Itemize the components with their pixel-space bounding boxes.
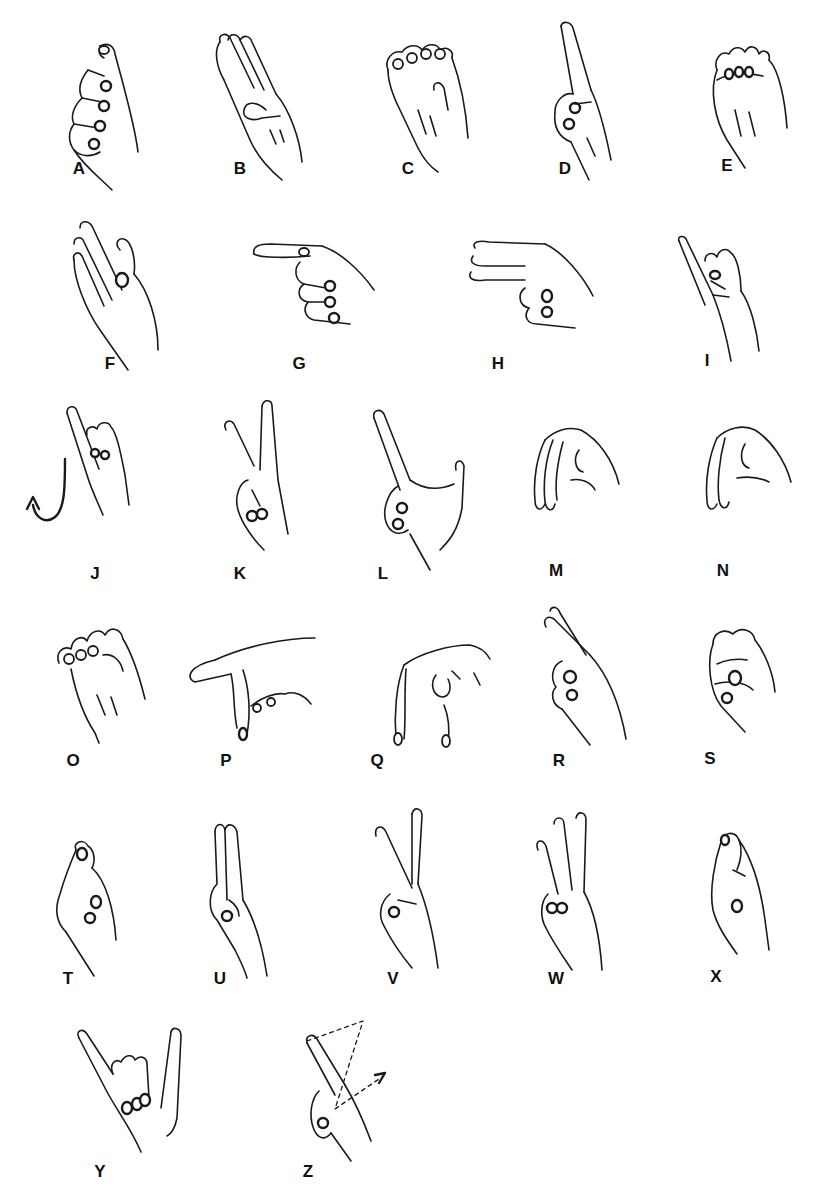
letter-label-o: O <box>66 752 79 769</box>
hand-three-up-spread-icon <box>532 810 642 980</box>
letter-label-z: Z <box>303 1163 313 1180</box>
letter-label-d: D <box>559 160 571 177</box>
hand-three-over-thumb-icon <box>525 420 645 540</box>
hand-index-point-side-icon <box>250 240 390 330</box>
hand-pinky-up-icon <box>675 235 785 365</box>
letter-label-t: T <box>63 970 73 987</box>
letter-label-m: M <box>549 562 563 579</box>
letter-label-n: N <box>717 562 729 579</box>
hand-flat-thumb-across-icon <box>210 30 320 170</box>
letter-label-a: A <box>73 160 85 177</box>
letter-label-y: Y <box>94 1163 105 1180</box>
letter-label-u: U <box>214 970 226 987</box>
manual-alphabet-chart: { "title": "", "letters": [ {"letter": "… <box>0 0 829 1197</box>
letter-label-s: S <box>704 750 715 767</box>
hand-index-trace-z-icon <box>305 1015 425 1165</box>
hand-thumb-pinky-out-icon <box>75 1028 195 1168</box>
hand-two-up-together-icon <box>205 820 305 980</box>
letter-label-p: P <box>220 752 231 769</box>
letter-label-k: K <box>234 565 246 582</box>
hand-two-point-side-icon <box>465 240 605 330</box>
hand-index-thumb-down-icon <box>390 635 510 745</box>
hand-o-shape-icon <box>55 615 165 745</box>
hand-two-up-spread-icon <box>372 808 482 978</box>
letter-label-v: V <box>387 970 398 987</box>
hand-two-over-thumb-icon <box>695 420 815 540</box>
hand-curved-icon <box>378 40 488 170</box>
hand-index-forward-middle-down-icon <box>185 630 335 740</box>
hand-fingers-curled-icon <box>705 40 805 170</box>
hand-thumb-between-fingers-icon <box>50 840 150 980</box>
letter-label-l: L <box>378 565 388 582</box>
letter-label-i: I <box>705 352 710 369</box>
letter-label-e: E <box>721 157 732 174</box>
hand-two-up-thumb-icon <box>220 400 330 560</box>
letter-label-g: G <box>292 355 305 372</box>
letter-label-w: W <box>548 970 564 987</box>
letter-label-h: H <box>492 355 504 372</box>
letter-label-j: J <box>90 565 99 582</box>
hand-crossed-fingers-icon <box>540 605 650 755</box>
letter-label-b: B <box>234 160 246 177</box>
letter-label-c: C <box>402 160 414 177</box>
letter-label-x: X <box>710 968 721 985</box>
hand-index-thumb-l-icon <box>370 410 480 570</box>
hand-fist-thumb-front-icon <box>705 620 805 750</box>
hand-index-hooked-icon <box>705 830 805 980</box>
hand-fist-thumb-side-icon <box>60 40 170 170</box>
letter-label-q: Q <box>370 752 383 769</box>
letter-label-f: F <box>105 355 115 372</box>
hand-pinky-hook-arrow-icon <box>25 405 175 555</box>
hand-ok-three-up-icon <box>70 220 180 370</box>
hand-index-up-icon <box>545 20 655 180</box>
letter-label-r: R <box>553 752 565 769</box>
